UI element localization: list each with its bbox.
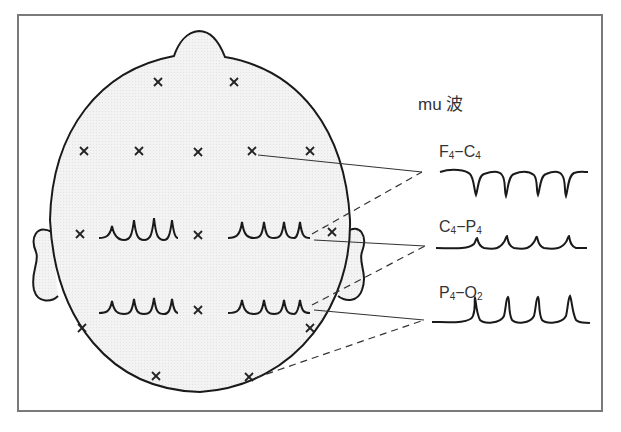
label-subscript: 2 xyxy=(477,291,483,302)
title-label: mu 波 xyxy=(418,90,463,115)
label-part: P xyxy=(465,218,476,235)
diagram-canvas: mu 波 F4−C4 C4−P4 P4−O2 xyxy=(0,0,621,432)
label-part: C xyxy=(464,143,476,160)
label-dash: − xyxy=(454,143,463,160)
channel-label-c4-p4: C4−P4 xyxy=(439,218,482,236)
label-dash: − xyxy=(455,284,464,301)
label-part: P xyxy=(439,284,450,301)
trace-c4-p4 xyxy=(436,236,587,249)
trace-f4-c4 xyxy=(440,170,588,196)
label-part: F xyxy=(439,143,449,160)
label-part: C xyxy=(439,218,451,235)
channel-label-f4-c4: F4−C4 xyxy=(439,143,481,161)
head-diagram xyxy=(0,0,621,432)
label-subscript: 4 xyxy=(475,150,481,161)
title-text: mu 波 xyxy=(418,95,463,114)
channel-label-p4-o2: P4−O2 xyxy=(439,284,483,302)
label-part: O xyxy=(465,284,477,301)
head-outline xyxy=(50,31,350,392)
label-subscript: 4 xyxy=(476,225,482,236)
